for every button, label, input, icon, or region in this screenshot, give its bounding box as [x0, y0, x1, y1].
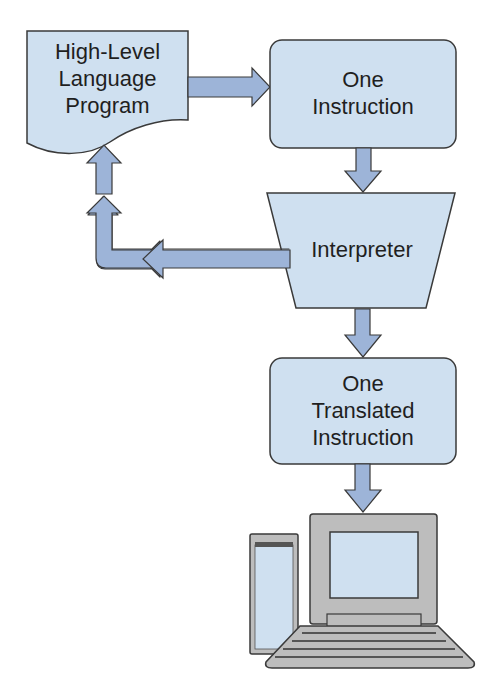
hll-label-line2: Language — [27, 65, 188, 92]
arrow-down-to-interpreter — [345, 148, 381, 192]
hll-program-node: High-Level Language Program — [27, 38, 188, 119]
one-instruction-line2: Instruction — [270, 93, 456, 120]
translated-instruction-node: One Translated Instruction — [270, 370, 456, 451]
arrow-up-to-program — [87, 145, 121, 194]
hll-label-line1: High-Level — [27, 38, 188, 65]
translated-line2: Translated — [270, 397, 456, 424]
one-instruction-line1: One — [270, 66, 456, 93]
translated-line1: One — [270, 370, 456, 397]
hll-label-line3: Program — [27, 92, 188, 119]
interpreter-label: Interpreter — [282, 236, 442, 263]
arrow-left-head — [143, 240, 290, 278]
arrow-down-to-translated — [345, 309, 381, 357]
interpreter-node: Interpreter — [282, 236, 442, 263]
translated-line3: Instruction — [270, 424, 456, 451]
one-instruction-node: One Instruction — [270, 66, 456, 120]
arrow-down-to-computer — [345, 464, 381, 512]
computer-icon — [250, 514, 474, 668]
arrow-right-to-instruction — [188, 68, 270, 106]
